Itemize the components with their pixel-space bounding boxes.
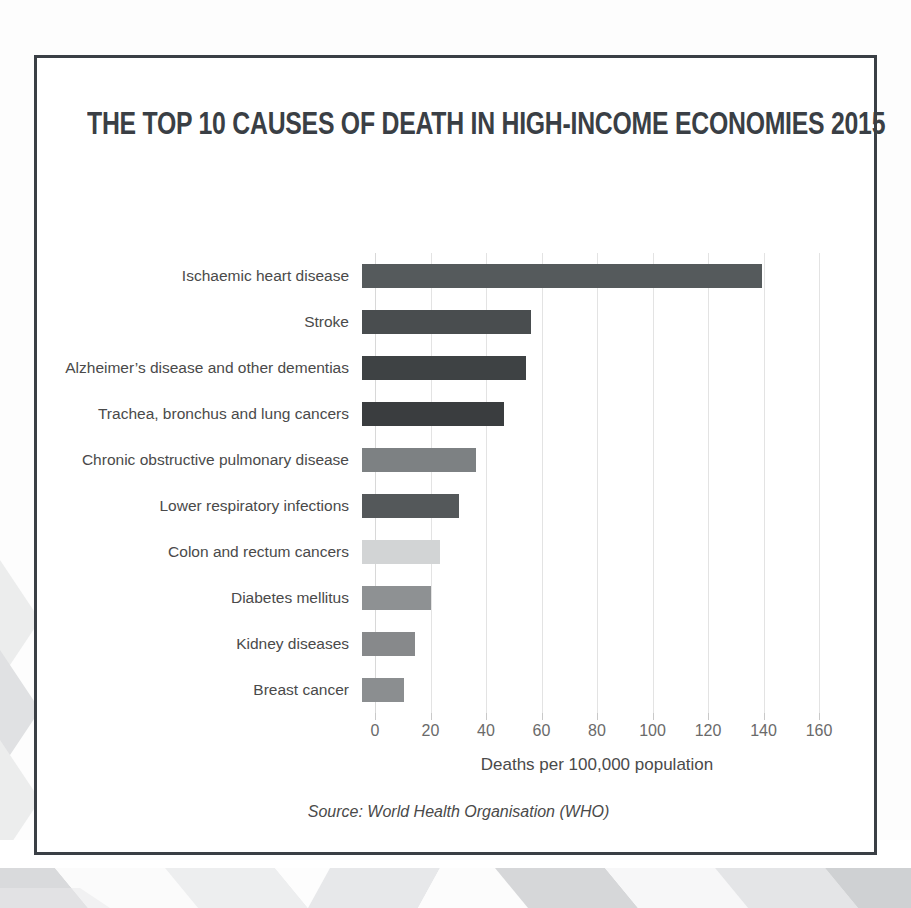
bar-row: Stroke — [37, 299, 880, 345]
x-tick-20 — [431, 713, 432, 720]
bar-track — [362, 667, 880, 713]
bar[interactable] — [362, 448, 476, 472]
page-title: THE TOP 10 CAUSES OF DEATH IN HIGH-INCOM… — [87, 106, 885, 142]
x-tick-label: 100 — [639, 722, 666, 740]
bar[interactable] — [362, 540, 440, 564]
bar-category-label: Ischaemic heart disease — [37, 267, 362, 285]
bar-row: Ischaemic heart disease — [37, 253, 880, 299]
bar[interactable] — [362, 310, 531, 334]
x-tick-label: 120 — [695, 722, 722, 740]
bar[interactable] — [362, 402, 504, 426]
x-tick-100 — [653, 713, 654, 720]
bar-category-label: Diabetes mellitus — [37, 589, 362, 607]
bar[interactable] — [362, 632, 415, 656]
bar-row: Kidney diseases — [37, 621, 880, 667]
chart-card: THE TOP 10 CAUSES OF DEATH IN HIGH-INCOM… — [34, 55, 877, 855]
bar-row: Alzheimer’s disease and other dementias — [37, 345, 880, 391]
bar-category-label: Kidney diseases — [37, 635, 362, 653]
x-tick-140 — [764, 713, 765, 720]
x-tick-120 — [708, 713, 709, 720]
bar-track — [362, 391, 880, 437]
bar-category-label: Chronic obstructive pulmonary disease — [37, 451, 362, 469]
x-tick-label: 20 — [422, 722, 440, 740]
chart-plot-area: Ischaemic heart diseaseStrokeAlzheimer’s… — [37, 198, 880, 718]
bar-category-label: Trachea, bronchus and lung cancers — [37, 405, 362, 423]
x-axis-title: Deaths per 100,000 population — [375, 755, 819, 775]
x-tick-label: 160 — [806, 722, 833, 740]
bar-track — [362, 437, 880, 483]
bar-row: Breast cancer — [37, 667, 880, 713]
bar-track — [362, 345, 880, 391]
x-tick-label: 40 — [477, 722, 495, 740]
bar-row: Colon and rectum cancers — [37, 529, 880, 575]
bar-track — [362, 299, 880, 345]
bar-track — [362, 483, 880, 529]
bar[interactable] — [362, 586, 431, 610]
bar-row: Trachea, bronchus and lung cancers — [37, 391, 880, 437]
x-tick-label: 140 — [750, 722, 777, 740]
bar-row: Lower respiratory infections — [37, 483, 880, 529]
bar-row: Chronic obstructive pulmonary disease — [37, 437, 880, 483]
bar-category-label: Stroke — [37, 313, 362, 331]
x-tick-label: 60 — [533, 722, 551, 740]
bar-category-label: Alzheimer’s disease and other dementias — [37, 359, 362, 377]
bar-category-label: Colon and rectum cancers — [37, 543, 362, 561]
bar-track — [362, 529, 880, 575]
source-caption: Source: World Health Organisation (WHO) — [37, 803, 880, 821]
bar[interactable] — [362, 356, 526, 380]
bar[interactable] — [362, 494, 459, 518]
bar-category-label: Breast cancer — [37, 681, 362, 699]
bar-track — [362, 575, 880, 621]
bar-row: Diabetes mellitus — [37, 575, 880, 621]
x-tick-40 — [486, 713, 487, 720]
x-tick-160 — [819, 713, 820, 720]
x-tick-label: 80 — [588, 722, 606, 740]
bar-track — [362, 253, 880, 299]
x-tick-label: 0 — [371, 722, 380, 740]
bar[interactable] — [362, 678, 404, 702]
x-tick-60 — [542, 713, 543, 720]
x-axis: 020406080100120140160 — [375, 713, 819, 743]
x-tick-0 — [375, 713, 376, 720]
x-tick-80 — [597, 713, 598, 720]
bar-track — [362, 621, 880, 667]
bar[interactable] — [362, 264, 762, 288]
bar-category-label: Lower respiratory infections — [37, 497, 362, 515]
